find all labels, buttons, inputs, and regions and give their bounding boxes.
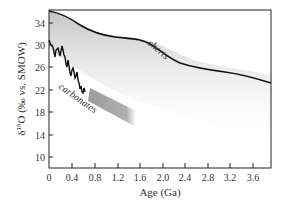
x-axis [72, 163, 253, 168]
svg-text:0: 0 [47, 172, 52, 183]
svg-text:0.4: 0.4 [66, 172, 79, 183]
svg-text:30: 30 [35, 40, 45, 51]
cherts-envelope [49, 11, 271, 148]
svg-text:1.6: 1.6 [134, 172, 147, 183]
x-tick-labels: 0 0.4 0.8 1.2 1.6 2.0 2.4 2.8 3.2 3.6 [47, 172, 260, 183]
svg-text:2.4: 2.4 [179, 172, 192, 183]
svg-text:3.2: 3.2 [224, 172, 237, 183]
y-axis-label: δ18O (‰ vs. SMOW) [15, 42, 28, 136]
svg-text:34: 34 [35, 18, 45, 29]
svg-text:1.2: 1.2 [112, 172, 125, 183]
svg-text:14: 14 [35, 130, 45, 141]
chart: cherts carbonates 34 30 26 22 18 14 10 0… [0, 0, 283, 209]
y-tick-labels: 34 30 26 22 18 14 10 [35, 18, 45, 163]
x-axis-label: Age (Ga) [139, 186, 181, 199]
svg-text:0.8: 0.8 [89, 172, 102, 183]
svg-text:26: 26 [35, 62, 45, 73]
svg-text:3.6: 3.6 [247, 172, 260, 183]
svg-text:18: 18 [35, 107, 45, 118]
svg-text:2.0: 2.0 [157, 172, 170, 183]
svg-text:2.8: 2.8 [202, 172, 215, 183]
svg-text:22: 22 [35, 85, 45, 96]
svg-text:10: 10 [35, 152, 45, 163]
